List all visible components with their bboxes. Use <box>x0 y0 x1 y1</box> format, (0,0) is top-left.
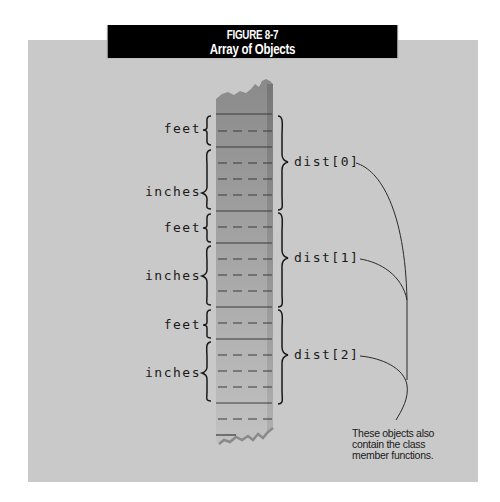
right-braces <box>278 116 288 404</box>
object-label-dist-0: dist[0] <box>294 154 359 169</box>
field-label-inches: inches <box>141 184 201 199</box>
connector-lines <box>356 163 407 420</box>
field-label-inches: inches <box>141 268 201 283</box>
field-label-feet: feet <box>141 220 201 235</box>
callout-note: These objects also contain the class mem… <box>352 428 472 461</box>
field-label-inches: inches <box>141 365 201 380</box>
memory-column <box>216 79 273 444</box>
callout-line: member functions. <box>352 450 472 461</box>
object-label-dist-2: dist[2] <box>294 347 359 362</box>
field-label-feet: feet <box>141 317 201 332</box>
field-label-feet: feet <box>141 121 201 136</box>
left-braces <box>202 116 211 401</box>
object-label-dist-1: dist[1] <box>294 250 359 265</box>
